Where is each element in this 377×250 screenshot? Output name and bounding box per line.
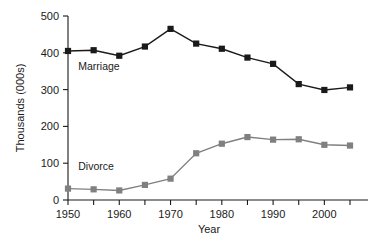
data-point-marker: [270, 137, 276, 143]
data-point-marker: [65, 48, 71, 54]
axes: 0100200300400500195019601970198019902000…: [14, 10, 368, 235]
data-point-marker: [193, 41, 199, 47]
data-point-marker: [244, 134, 250, 140]
data-point-marker: [321, 87, 327, 93]
data-point-marker: [270, 61, 276, 67]
data-point-marker: [347, 142, 353, 148]
series-annotations: MarriageDivorce: [78, 60, 120, 171]
data-point-marker: [142, 182, 148, 188]
series-label-marriage: Marriage: [78, 60, 120, 72]
y-tick-label: 400: [41, 47, 59, 59]
series-marriage: [65, 26, 353, 93]
data-point-marker: [347, 84, 353, 90]
data-point-marker: [65, 185, 71, 191]
data-point-marker: [219, 46, 225, 52]
data-point-marker: [193, 150, 199, 156]
series-line-marriage: [68, 29, 350, 90]
data-point-marker: [116, 53, 122, 59]
x-tick-label: 1990: [261, 208, 285, 220]
data-point-marker: [167, 26, 173, 32]
data-point-marker: [91, 47, 97, 53]
y-tick-label: 100: [41, 157, 59, 169]
y-tick-label: 0: [53, 194, 59, 206]
chart-container: 0100200300400500195019601970198019902000…: [0, 0, 377, 250]
data-point-marker: [116, 187, 122, 193]
axis-lines: [68, 16, 368, 200]
y-tick-label: 500: [41, 10, 59, 22]
line-chart: 0100200300400500195019601970198019902000…: [0, 0, 377, 250]
data-point-marker: [296, 81, 302, 87]
series-label-divorce: Divorce: [78, 160, 114, 172]
data-point-marker: [321, 142, 327, 148]
y-axis-title: Thousands (000s): [14, 64, 26, 153]
x-axis-title: Year: [198, 223, 221, 235]
y-tick-label: 200: [41, 120, 59, 132]
x-tick-label: 2000: [312, 208, 336, 220]
x-tick-label: 1960: [107, 208, 131, 220]
data-point-marker: [142, 43, 148, 49]
x-tick-label: 1950: [56, 208, 80, 220]
data-point-marker: [219, 141, 225, 147]
data-point-marker: [91, 186, 97, 192]
data-point-marker: [167, 176, 173, 182]
data-point-marker: [296, 136, 302, 142]
y-tick-label: 300: [41, 84, 59, 96]
x-tick-label: 1980: [210, 208, 234, 220]
x-tick-label: 1970: [158, 208, 182, 220]
data-point-marker: [244, 54, 250, 60]
